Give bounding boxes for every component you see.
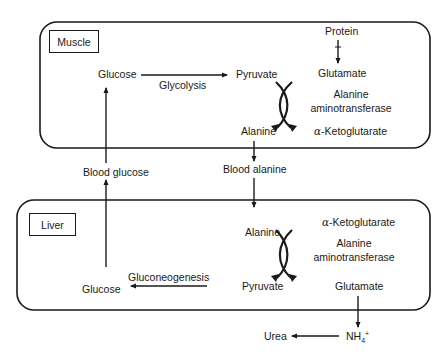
liver-enzyme-line1: Alanine (336, 237, 371, 249)
muscle-glutamate: Glutamate (318, 68, 366, 79)
muscle-enzyme-label: Alanine aminotransferase (307, 88, 395, 115)
muscle-pyruvate: Pyruvate (236, 69, 277, 80)
muscle-label: Muscle (49, 30, 99, 53)
liver-enzyme-label: Alanine aminotransferase (310, 237, 398, 264)
ammonium-text: NH (346, 330, 361, 342)
liver-alanine: Alanine (245, 227, 280, 238)
liver-label-text: Liver (41, 219, 64, 231)
muscle-alpha-ketoglutarate: α-Ketoglutarate (314, 126, 387, 137)
liver-pyruvate: Pyruvate (242, 281, 283, 292)
gluconeogenesis-label: Gluconeogenesis (128, 272, 209, 283)
protein: Protein (325, 26, 358, 37)
liver-glucose: Glucose (82, 284, 121, 295)
ketoglutarate-text: -Ketoglutarate (321, 125, 387, 137)
liver-alpha-ketoglutarate: α-Ketoglutarate (322, 217, 395, 228)
liver-enzyme-line2: aminotransferase (313, 251, 394, 263)
ammonium-subscript: 4 (361, 337, 365, 344)
muscle-label-text: Muscle (57, 36, 90, 48)
ammonium: NH4+ (346, 331, 369, 342)
blood-alanine: Blood alanine (223, 164, 287, 175)
liver-glutamate: Glutamate (335, 281, 383, 292)
urea: Urea (264, 331, 287, 342)
liver-label: Liver (29, 213, 76, 236)
muscle-enzyme-line2: aminotransferase (310, 102, 391, 114)
ketoglutarate-text: -Ketoglutarate (329, 216, 395, 228)
blood-glucose: Blood glucose (83, 167, 149, 178)
glycolysis-label: Glycolysis (159, 80, 206, 91)
muscle-enzyme-line1: Alanine (333, 88, 368, 100)
ammonium-superscript: + (365, 330, 369, 337)
muscle-alanine: Alanine (241, 126, 276, 137)
diagram-canvas (0, 0, 444, 354)
muscle-glucose: Glucose (98, 69, 137, 80)
